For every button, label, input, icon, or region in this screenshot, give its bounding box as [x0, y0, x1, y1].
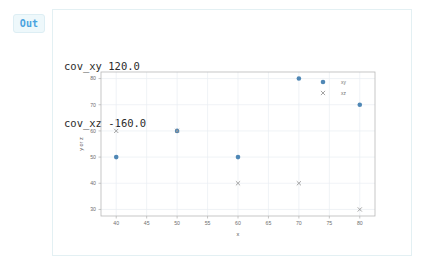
y-tick-label: 70	[90, 102, 96, 108]
y-tick-label: 40	[90, 180, 96, 186]
data-point-xy	[357, 102, 362, 107]
x-tick-label: 50	[174, 220, 180, 226]
data-point-xy	[297, 76, 302, 81]
scatter-plot-figure: 404550556065707580304050607080xy or zxyx…	[63, 64, 403, 249]
x-tick-label: 55	[205, 220, 211, 226]
y-tick-label: 80	[90, 75, 96, 81]
legend-label-xy: xy	[341, 80, 346, 85]
x-tick-label: 40	[113, 220, 119, 226]
output-prompt-label: Out	[13, 14, 45, 33]
y-axis-title: y or z	[78, 137, 84, 151]
data-point-xy	[236, 155, 241, 160]
y-tick-label: 50	[90, 154, 96, 160]
output-panel: cov_xy 120.0 cov_xz -160.0 4045505560657…	[52, 9, 412, 256]
legend-marker-xy	[321, 80, 326, 85]
y-tick-label: 60	[90, 128, 96, 134]
scatter-plot-svg: 404550556065707580304050607080xy or zxyx…	[63, 64, 403, 249]
x-tick-label: 65	[266, 220, 272, 226]
x-tick-label: 70	[296, 220, 302, 226]
x-tick-label: 45	[144, 220, 150, 226]
x-tick-label: 80	[357, 220, 363, 226]
jupyter-output-cell: Out cov_xy 120.0 cov_xz -160.0 404550556…	[0, 0, 425, 273]
x-axis-title: x	[237, 231, 240, 237]
y-tick-label: 30	[90, 206, 96, 212]
x-tick-label: 75	[326, 220, 332, 226]
legend-label-xz: xz	[341, 91, 346, 96]
data-point-xy	[114, 155, 119, 160]
x-tick-label: 60	[235, 220, 241, 226]
